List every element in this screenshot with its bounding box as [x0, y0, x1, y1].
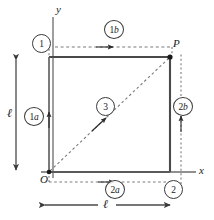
- step-marker-2a-sub: a: [115, 185, 120, 195]
- step-marker-2: 2: [164, 180, 183, 199]
- step-marker-1: 1: [32, 34, 51, 53]
- y-axis-label: y: [56, 4, 61, 15]
- step-marker-1b: 1b: [104, 20, 124, 39]
- step-marker-1b-sub: b: [114, 25, 119, 35]
- square-path-diagram: y x O P ℓ ℓ 1 1a 1b 2 2a 2b 3: [0, 0, 214, 220]
- step-marker-2a: 2a: [105, 180, 125, 199]
- point-p-label: P: [173, 38, 180, 49]
- vertical-length-label: ℓ: [7, 107, 12, 119]
- step-marker-3: 3: [96, 97, 115, 116]
- step-marker-1-text: 1: [39, 39, 44, 49]
- path-two-group: [49, 52, 181, 184]
- corner-point-dot-p: [167, 54, 172, 59]
- step-marker-1a-sub: a: [34, 112, 39, 122]
- origin-label: O: [40, 174, 48, 185]
- step-marker-2b-sub: b: [183, 102, 188, 112]
- horizontal-length-label: ℓ: [103, 198, 108, 210]
- step-marker-1a: 1a: [24, 107, 44, 126]
- step-marker-2b: 2b: [173, 97, 193, 116]
- step-marker-3-text: 3: [103, 102, 108, 112]
- step-marker-2-text: 2: [171, 185, 176, 195]
- x-axis-label: x: [199, 165, 204, 176]
- path-3-arrow: [92, 118, 106, 131]
